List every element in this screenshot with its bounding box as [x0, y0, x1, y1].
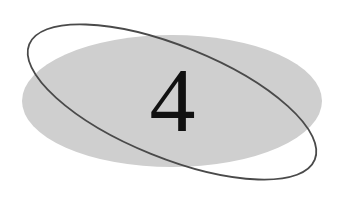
chapter-number: 4 [0, 0, 345, 197]
